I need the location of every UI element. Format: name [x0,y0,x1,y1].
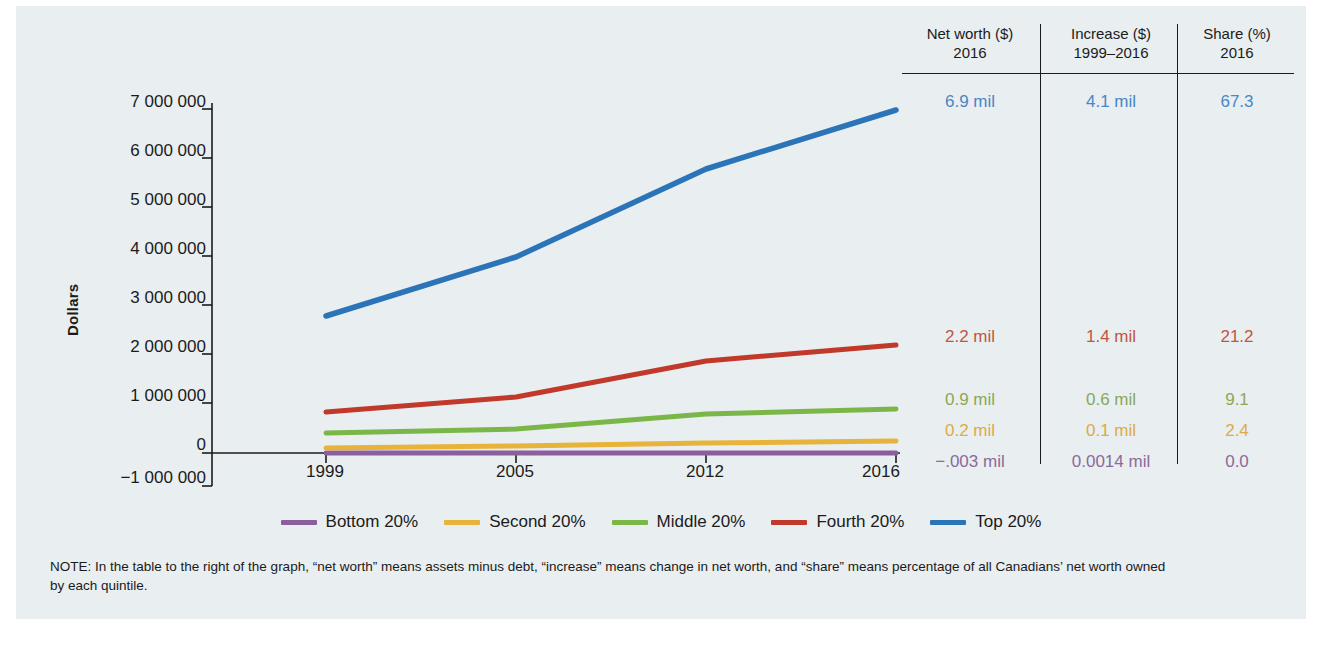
series-line-top-20 [326,110,896,316]
table-header-rule [902,73,1294,74]
legend-label: Middle 20% [657,512,746,532]
table-cell-net-worth: 0.9 mil [900,390,1040,410]
table-cell-net-worth: 6.9 mil [900,92,1040,112]
legend-swatch-icon [444,520,480,525]
table-cell-net-worth: −.003 mil [900,452,1040,472]
legend-item-fourth-20[interactable]: Fourth 20% [771,512,904,532]
table-cell-increase: 0.6 mil [1046,390,1176,410]
series-line-middle-20 [326,409,896,433]
table-cell-increase: 4.1 mil [1046,92,1176,112]
legend-swatch-icon [612,520,648,525]
table-header-line2: 2016 [953,44,986,61]
table-header-increase: Increase ($) 1999–2016 [1046,24,1176,62]
series-line-fourth-20 [326,345,896,412]
table-cell-increase: 0.1 mil [1046,421,1176,441]
series-line-second-20 [326,441,896,448]
legend-item-top-20[interactable]: Top 20% [930,512,1041,532]
figure-root: Dollars 7 000 000 6 000 000 5 000 000 4 … [0,0,1322,663]
legend-swatch-icon [281,520,317,525]
table-header-line1: Net worth ($) [927,25,1014,42]
legend-swatch-icon [771,520,807,525]
table-header-net-worth: Net worth ($) 2016 [900,24,1040,62]
legend-label: Fourth 20% [816,512,904,532]
y-tick-marks [202,109,212,486]
summary-table: Net worth ($) 2016 Increase ($) 1999–201… [900,24,1296,464]
legend-item-bottom-20[interactable]: Bottom 20% [281,512,419,532]
figure-panel: Dollars 7 000 000 6 000 000 5 000 000 4 … [16,6,1306,619]
table-column-divider [1177,24,1178,464]
legend-item-second-20[interactable]: Second 20% [444,512,585,532]
table-column-divider [1040,24,1041,464]
table-cell-increase: 0.0014 mil [1046,452,1176,472]
table-header-line2: 2016 [1220,44,1253,61]
table-header-share: Share (%) 2016 [1182,24,1292,62]
table-header-line1: Share (%) [1203,25,1271,42]
table-cell-net-worth: 2.2 mil [900,327,1040,347]
figure-note: NOTE: In the table to the right of the g… [50,557,1170,595]
table-header-line2: 1999–2016 [1073,44,1148,61]
table-cell-increase: 1.4 mil [1046,327,1176,347]
legend-item-middle-20[interactable]: Middle 20% [612,512,746,532]
legend-label: Bottom 20% [326,512,419,532]
table-cell-share: 0.0 [1182,452,1292,472]
table-header-line1: Increase ($) [1071,25,1151,42]
legend-swatch-icon [930,520,966,525]
table-cell-share: 9.1 [1182,390,1292,410]
legend-label: Second 20% [489,512,585,532]
table-cell-share: 67.3 [1182,92,1292,112]
legend-label: Top 20% [975,512,1041,532]
table-cell-share: 2.4 [1182,421,1292,441]
chart-legend: Bottom 20% Second 20% Middle 20% Fourth … [16,512,1306,532]
table-cell-share: 21.2 [1182,327,1292,347]
table-cell-net-worth: 0.2 mil [900,421,1040,441]
